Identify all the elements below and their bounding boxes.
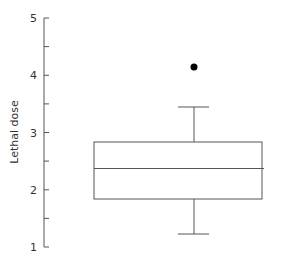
y-tick-label: 3 <box>30 127 37 140</box>
y-tick-label: 4 <box>30 69 37 82</box>
y-tick-labels: 5 4 3 2 1 <box>30 12 37 254</box>
iqr-box <box>94 142 262 199</box>
y-tick-label: 2 <box>30 184 37 197</box>
y-axis-ticks <box>44 18 49 247</box>
y-tick-label: 5 <box>30 12 37 25</box>
y-tick-label: 1 <box>30 241 37 254</box>
box-plot: 5 4 3 2 1 Lethal dose <box>0 0 304 263</box>
y-axis-label: Lethal dose <box>8 100 21 164</box>
outlier-point <box>191 64 198 71</box>
box-series <box>94 107 264 234</box>
